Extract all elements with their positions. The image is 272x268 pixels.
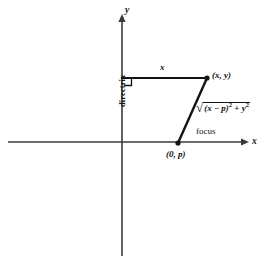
plus-operator: +	[232, 103, 242, 113]
point-0p-label: (0, p)	[166, 150, 186, 159]
distance-expression: √(x − p)2 + y2	[196, 100, 250, 116]
point-xy-label: (x, y)	[212, 71, 231, 80]
x-axis-arrowhead	[241, 138, 249, 145]
radicand: (x − p)2 + y2	[203, 102, 250, 113]
horizontal-segment-label: x	[160, 63, 165, 72]
x-axis-label: x	[252, 137, 257, 147]
exponent-two-second: 2	[246, 101, 249, 108]
y-axis	[118, 14, 125, 256]
y-axis-label: y	[125, 6, 129, 16]
x-axis	[8, 138, 249, 145]
parabola-focus-directrix-figure: y x directrix x (x, y) focus (0, p) √(x …	[0, 0, 272, 268]
minus-operator: −	[212, 103, 222, 113]
directrix-label: directrix	[118, 75, 127, 107]
figure-canvas	[0, 0, 272, 268]
focus-label: focus	[196, 127, 216, 136]
point-xy-marker	[204, 75, 209, 80]
point-focus-marker	[175, 140, 180, 145]
